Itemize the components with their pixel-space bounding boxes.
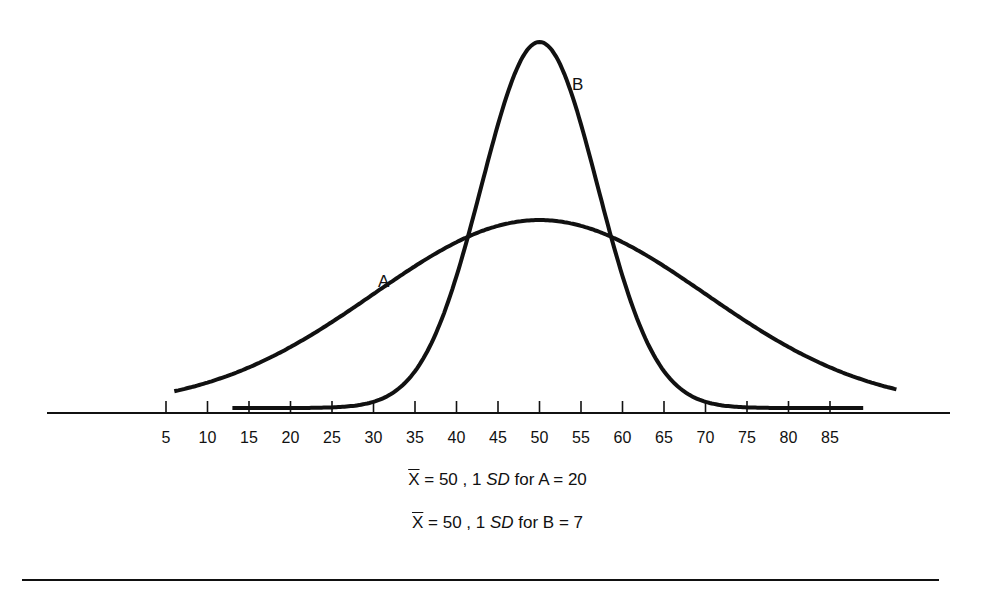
x-tick-label: 75 bbox=[738, 429, 756, 446]
x-tick-label: 55 bbox=[572, 429, 590, 446]
curve-a-label: A bbox=[378, 272, 390, 291]
curve-b-label: B bbox=[572, 75, 583, 94]
caption-b-mean-text: = 50 , 1 bbox=[423, 513, 490, 532]
x-tick-label: 60 bbox=[614, 429, 632, 446]
x-tick-label: 10 bbox=[199, 429, 217, 446]
x-tick-label: 20 bbox=[282, 429, 300, 446]
mean-symbol: X bbox=[412, 513, 423, 532]
caption-b-sd-text: for B = 7 bbox=[514, 513, 583, 532]
x-tick-label: 85 bbox=[821, 429, 839, 446]
caption-a-sd-text: for A = 20 bbox=[510, 470, 587, 489]
x-axis-tick-labels: 510152025303540455055606570758085 bbox=[162, 429, 839, 446]
sd-symbol: SD bbox=[490, 513, 514, 532]
curve-b bbox=[232, 42, 863, 408]
x-tick-label: 50 bbox=[531, 429, 549, 446]
mean-symbol: X bbox=[408, 470, 419, 489]
x-tick-label: 40 bbox=[448, 429, 466, 446]
x-tick-label: 25 bbox=[323, 429, 341, 446]
x-tick-label: 80 bbox=[780, 429, 798, 446]
x-tick-label: 45 bbox=[489, 429, 507, 446]
x-tick-label: 5 bbox=[162, 429, 171, 446]
curve-a bbox=[174, 220, 896, 391]
bottom-rule-divider bbox=[22, 579, 939, 581]
x-tick-label: 35 bbox=[406, 429, 424, 446]
x-tick-label: 65 bbox=[655, 429, 673, 446]
x-tick-label: 70 bbox=[697, 429, 715, 446]
caption-b: X = 50 , 1 SD for B = 7 bbox=[0, 513, 995, 533]
x-tick-label: 15 bbox=[240, 429, 258, 446]
normal-curves-chart: 510152025303540455055606570758085 A B bbox=[0, 0, 995, 591]
x-tick-label: 30 bbox=[365, 429, 383, 446]
caption-a-mean-text: = 50 , 1 bbox=[420, 470, 487, 489]
sd-symbol: SD bbox=[486, 470, 510, 489]
caption-a: X = 50 , 1 SD for A = 20 bbox=[0, 470, 995, 490]
